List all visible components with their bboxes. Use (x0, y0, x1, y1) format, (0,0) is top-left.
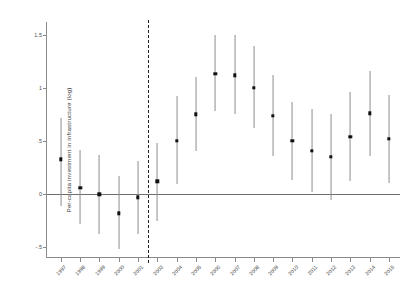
x-axis-tick-label: 2012 (325, 264, 337, 276)
x-axis-tick (119, 257, 120, 262)
point-estimate-marker (271, 114, 274, 117)
plot-area: 1.51.50-.5199719981999200020012003200420… (46, 22, 400, 258)
point-estimate-marker (310, 149, 313, 152)
point-estimate-marker (291, 139, 294, 142)
point-estimate-marker (156, 180, 159, 183)
x-axis-tick (61, 257, 62, 262)
x-axis-tick (177, 257, 178, 262)
x-axis-tick-label: 2008 (248, 264, 260, 276)
x-axis-tick-label: 2013 (344, 264, 356, 276)
x-axis-tick (196, 257, 197, 262)
x-axis-tick-label: 2006 (209, 264, 221, 276)
point-estimate-marker (329, 155, 332, 158)
y-axis-tick (43, 141, 47, 142)
point-estimate-marker (175, 139, 178, 142)
y-axis-tick (43, 88, 47, 89)
x-axis-tick-label: 2007 (229, 264, 241, 276)
x-axis-tick (389, 257, 390, 262)
y-axis-tick (43, 194, 47, 195)
x-axis-tick (215, 257, 216, 262)
y-axis-tick (43, 247, 47, 248)
x-axis-tick (138, 257, 139, 262)
point-estimate-marker (78, 186, 81, 189)
treatment-cutoff-line (148, 20, 149, 263)
x-axis-tick (292, 257, 293, 262)
point-estimate-marker (387, 137, 390, 140)
x-axis-tick (273, 257, 274, 262)
point-estimate-marker (59, 157, 62, 160)
x-axis-tick-label: 2014 (364, 264, 376, 276)
point-estimate-marker (194, 113, 197, 116)
coefficient-plot-figure: Per-capita investment in infrastructure … (0, 0, 416, 299)
x-axis-tick (254, 257, 255, 262)
x-axis-tick (80, 257, 81, 262)
point-estimate-marker (368, 112, 371, 115)
confidence-interval-bar (60, 118, 61, 206)
x-axis-tick-label: 1998 (74, 264, 86, 276)
x-axis-tick (235, 257, 236, 262)
x-axis-tick-label: 2003 (151, 264, 163, 276)
point-estimate-marker (349, 135, 352, 138)
point-estimate-marker (136, 196, 139, 199)
x-axis-tick (312, 257, 313, 262)
x-axis-tick (331, 257, 332, 262)
point-estimate-marker (214, 72, 217, 75)
x-axis-tick (370, 257, 371, 262)
y-axis-tick (43, 35, 47, 36)
point-estimate-marker (252, 86, 255, 89)
x-axis-tick-label: 2005 (190, 264, 202, 276)
x-axis-tick-label: 2004 (171, 264, 183, 276)
x-axis-tick (157, 257, 158, 262)
y-axis-tick-label: .5 (37, 138, 42, 144)
y-axis-tick-label: 0 (39, 191, 42, 197)
y-axis-tick-label: 1 (39, 85, 42, 91)
x-axis-tick-label: 1999 (94, 264, 106, 276)
x-axis-tick-label: 2001 (132, 264, 144, 276)
point-estimate-marker (117, 212, 120, 215)
x-axis-tick-label: 2009 (267, 264, 279, 276)
x-axis-tick-label: 2015 (383, 264, 395, 276)
point-estimate-marker (233, 73, 236, 76)
point-estimate-marker (98, 193, 101, 196)
y-axis-tick-label: -.5 (35, 244, 42, 250)
x-axis-tick-label: 2010 (286, 264, 298, 276)
y-axis-tick-label: 1.5 (34, 32, 42, 38)
x-axis-tick-label: 2011 (306, 264, 318, 276)
x-axis-tick (350, 257, 351, 262)
x-axis-tick (99, 257, 100, 262)
x-axis-tick-label: 2000 (113, 264, 125, 276)
x-axis-tick-label: 1997 (55, 264, 67, 276)
